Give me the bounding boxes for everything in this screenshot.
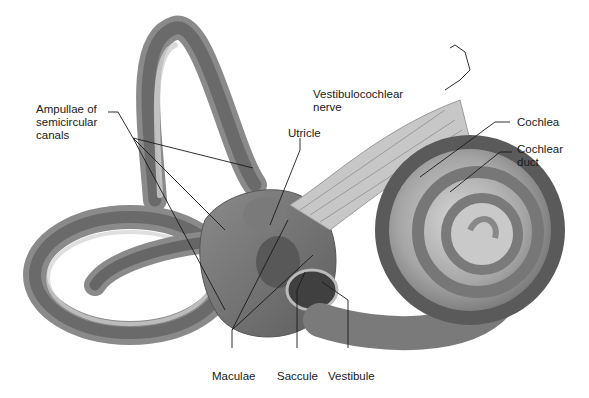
label-saccule: Saccule (277, 370, 318, 383)
label-maculae: Maculae (212, 370, 255, 383)
anatomy-illustration (0, 0, 589, 398)
label-cochlear-duct: Cochlear duct (517, 143, 563, 169)
label-utricle: Utricle (288, 127, 321, 140)
label-vestibulocochlear-nerve: Vestibulocochlear nerve (313, 88, 403, 114)
label-vestibule: Vestibule (328, 370, 375, 383)
superior-semicircular-canal (148, 28, 255, 200)
inner-ear-diagram: Ampullae of semicircular canals Utricle … (0, 0, 589, 398)
label-ampullae: Ampullae of semicircular canals (36, 103, 97, 142)
label-cochlea: Cochlea (517, 116, 559, 129)
